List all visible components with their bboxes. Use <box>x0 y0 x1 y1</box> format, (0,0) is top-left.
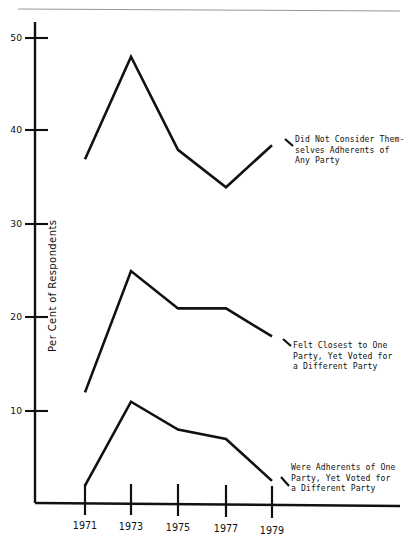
leader-bottom <box>281 477 289 486</box>
y-tick-label-50: 50 <box>10 32 22 43</box>
series-line-were-adherents <box>85 402 272 486</box>
annotation-bottom-line1: Were Adherents of One <box>291 462 395 472</box>
x-tick-label-1975: 1975 <box>166 522 190 533</box>
annotation-bottom-line2: Party, Yet Voted for <box>291 473 390 483</box>
annotation-bottom-line3: a Different Party <box>291 483 376 493</box>
annotation-top-line2: selves Adherents of <box>295 145 389 155</box>
x-tick-label-1973: 1973 <box>119 521 143 532</box>
annotation-top: Did Not Consider Them- selves Adherents … <box>295 134 404 166</box>
y-axis-label: Per Cent of Respondents <box>47 220 58 352</box>
leader-middle <box>283 339 291 346</box>
x-axis-line <box>35 503 400 506</box>
annotation-middle-line3: a Different Party <box>293 361 378 371</box>
y-tick-label-10: 10 <box>10 405 22 416</box>
annotation-top-line3: Any Party <box>295 155 340 165</box>
scan-artifact-line <box>18 9 400 11</box>
leader-top <box>285 139 293 146</box>
series-line-no-party-adherence <box>85 57 272 188</box>
x-tick-label-1979: 1979 <box>260 525 284 536</box>
annotation-middle: Felt Closest to One Party, Yet Voted for… <box>293 340 392 372</box>
x-tick-label-1977: 1977 <box>214 523 238 534</box>
annotation-middle-line1: Felt Closest to One <box>293 340 387 350</box>
y-tick-label-30: 30 <box>10 218 22 229</box>
annotation-bottom: Were Adherents of One Party, Yet Voted f… <box>291 462 395 494</box>
annotation-top-line1: Did Not Consider Them- <box>295 134 404 144</box>
y-tick-label-20: 20 <box>10 311 22 322</box>
y-tick-label-40: 40 <box>10 124 22 135</box>
series-line-felt-closest <box>85 271 272 392</box>
x-tick-label-1971: 1971 <box>73 520 97 531</box>
annotation-middle-line2: Party, Yet Voted for <box>293 351 392 361</box>
